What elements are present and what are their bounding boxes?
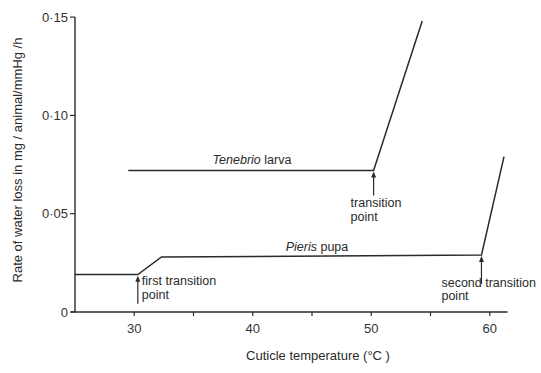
annotation-label: first transition (142, 274, 216, 288)
axes: 00·050·100·1530405060 (42, 10, 508, 336)
series-label-italic: Tenebrio (213, 153, 261, 167)
annotations-group: transitionpointfirst transitionpointseco… (135, 171, 536, 303)
x-tick-label: 60 (483, 321, 497, 336)
y-axis-title: Rate of water loss in mg / animal/mmHg /… (10, 38, 25, 283)
arrow-up-icon (135, 276, 140, 282)
annotation-label: point (142, 288, 170, 302)
series-label-italic: Pieris (286, 240, 317, 254)
y-tick-label: 0 (61, 305, 68, 320)
series-group: Tenebrio larvaPieris pupa (75, 21, 504, 275)
x-tick-label: 30 (127, 321, 141, 336)
annotation-label: point (441, 289, 469, 303)
y-tick-label: 0·10 (42, 108, 68, 123)
x-tick-label: 50 (364, 321, 378, 336)
series-label-tenebrio-larva: Tenebrio larva (213, 153, 292, 167)
series-label-plain: larva (261, 153, 292, 167)
x-tick-label: 40 (246, 321, 260, 336)
series-line-pieris-pupa (75, 157, 504, 275)
annotation-label: transition (351, 196, 402, 210)
x-axis-title: Cuticle temperature (°C ) (246, 348, 390, 363)
series-line-tenebrio-larva (128, 21, 422, 170)
arrow-up-icon (371, 171, 376, 177)
annotation-label: point (351, 210, 379, 224)
series-label-plain: pupa (317, 240, 348, 254)
water-loss-chart: 00·050·100·1530405060 Tenebrio larvaPier… (0, 0, 541, 373)
series-label-pieris-pupa: Pieris pupa (286, 240, 349, 254)
arrow-up-icon (479, 256, 484, 262)
y-tick-label: 0·15 (42, 10, 68, 25)
annotation-label: second transition (441, 276, 536, 290)
y-tick-label: 0·05 (42, 206, 68, 221)
